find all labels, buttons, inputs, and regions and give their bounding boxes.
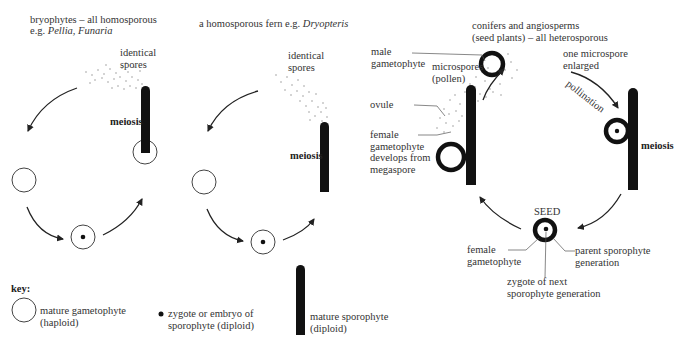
line-1: mature gametophyte xyxy=(40,305,126,316)
title-line-2: (seed plants) – all heterosporous xyxy=(472,32,608,43)
microspore-circle xyxy=(481,53,503,75)
female-gametophyte-label: femalegametophytedevelops frommegaspore xyxy=(370,129,430,175)
arrow-zygote-to-sporophyte xyxy=(283,219,314,240)
ovule-label: ovule xyxy=(370,99,393,111)
arrow-to-seed xyxy=(578,194,621,228)
line-4: megaspore xyxy=(370,164,415,175)
bryophytes-title: bryophytes – all homosporous xyxy=(30,14,157,26)
microspores-label: microspores(pollen) xyxy=(432,61,483,84)
line-2: enlarged xyxy=(563,60,599,71)
line-2: gametophyte xyxy=(370,141,424,152)
bryophytes-spores-label: identicalspores xyxy=(120,47,156,70)
leader-ovule xyxy=(414,105,445,116)
line-1: microspores xyxy=(432,61,483,72)
bryophytes-example: e.g. Pellia, Funaria xyxy=(30,25,113,37)
parent-sporophyte-label: parent sporophytegeneration xyxy=(575,245,651,268)
arrow-seed-to-sporophyte xyxy=(480,197,521,229)
ovule-circle xyxy=(438,144,464,170)
one-microspore-label: one microsporeenlarged xyxy=(563,48,628,71)
key-dot-icon xyxy=(159,312,164,317)
line-2: (haploid) xyxy=(40,317,79,328)
line-1: male xyxy=(371,46,391,57)
line-1: parent sporophyte xyxy=(575,245,651,256)
line-2: sporophyte generation xyxy=(507,288,601,299)
line-2: (pollen) xyxy=(432,73,465,84)
line-3: develops from xyxy=(370,152,430,163)
line-1: female xyxy=(467,244,496,255)
key-open-circle-icon xyxy=(12,298,36,322)
arrow-spores-to-gametophyte xyxy=(28,88,77,131)
bryophytes-meiosis-label: meiosis xyxy=(110,116,143,128)
male-gametophyte-label: malegametophyte xyxy=(371,46,425,69)
gametophyte-circle xyxy=(12,168,36,192)
line-1: zygote of next xyxy=(507,276,567,287)
key-item-sporophyte: mature sporophyte(diploid) xyxy=(310,311,388,334)
line-1: mature sporophyte xyxy=(310,311,388,322)
arrow-spores-to-gametophyte xyxy=(208,91,258,131)
key-title: key: xyxy=(11,283,30,295)
zygote-dot xyxy=(261,240,266,245)
fern-cycle xyxy=(192,74,329,254)
zygote-dot xyxy=(615,129,619,133)
line-2: generation xyxy=(575,257,619,268)
example-prefix: e.g. xyxy=(30,25,48,36)
seed-plants-title: conifers and angiosperms(seed plants) – … xyxy=(472,20,608,43)
arrow-gametophyte-to-zygote xyxy=(207,209,243,241)
seed-label: SEED xyxy=(534,206,560,218)
title-line-1: conifers and angiosperms xyxy=(472,20,579,31)
leader-seed-parent xyxy=(553,238,575,251)
line-2: gametophyte xyxy=(467,256,521,267)
arrow-gametophyte-to-zygote xyxy=(27,207,63,239)
line-2: sporophyte (diploid) xyxy=(168,320,254,331)
spores-line-1: identical xyxy=(120,47,156,58)
seed-plants-meiosis-label: meiosis xyxy=(641,140,674,152)
line-1: zygote or embryo of xyxy=(168,308,253,319)
fern-example: Dryopteris xyxy=(303,18,349,29)
spore-dots xyxy=(275,74,327,121)
seed-female-gametophyte-label: femalegametophyte xyxy=(467,244,521,267)
zygote-next-generation-label: zygote of nextsporophyte generation xyxy=(507,276,601,299)
seed-embryo-dot xyxy=(544,227,549,232)
arrow-zygote-to-sporophyte xyxy=(103,199,142,235)
key-item-gametophyte: mature gametophyte(haploid) xyxy=(40,305,126,328)
line-1: female xyxy=(370,129,399,140)
gametophyte-circle xyxy=(192,170,216,194)
spores-line-1: identical xyxy=(288,50,324,61)
fern-meiosis-label: meiosis xyxy=(290,150,323,162)
spores-line-2: spores xyxy=(288,62,315,73)
key-item-zygote: zygote or embryo ofsporophyte (diploid) xyxy=(168,308,254,331)
fern-title: a homosporous fern e.g. Dryopteris xyxy=(199,18,348,30)
line-1: one microspore xyxy=(563,48,628,59)
example-taxa: Pellia, Funaria xyxy=(48,25,113,36)
line-2: gametophyte xyxy=(371,58,425,69)
fern-title-text: a homosporous fern e.g. xyxy=(199,18,303,29)
bryophyte-cycle xyxy=(12,62,157,249)
line-2: (diploid) xyxy=(310,323,347,334)
zygote-dot xyxy=(81,235,86,240)
fern-spores-label: identicalspores xyxy=(288,50,324,73)
spores-line-2: spores xyxy=(120,59,147,70)
